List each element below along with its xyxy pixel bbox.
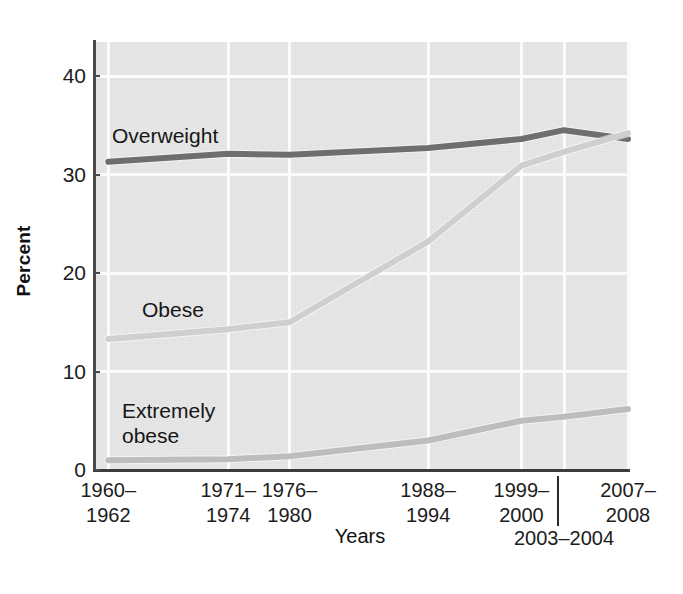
y-axis-tick-mark — [93, 272, 100, 274]
y-axis-tick-mark — [93, 469, 100, 471]
gridline-horizontal — [95, 272, 628, 275]
x-axis-tick-label: 2007–2008 — [568, 478, 683, 528]
x-tick-line-2: 2004 — [570, 527, 615, 549]
x-axis-line — [93, 469, 630, 472]
x-tick-line-1: 1988– — [400, 479, 456, 501]
x-tick-line-1: 1999– — [494, 479, 550, 501]
gridline-vertical — [627, 42, 630, 470]
x-axis-tick-label: 2003–2004 — [504, 526, 624, 551]
x-tick-line-2: 2008 — [568, 503, 683, 528]
y-axis-tick-label: 0 — [46, 459, 86, 480]
series-label: Obese — [142, 297, 204, 322]
gridline-horizontal — [95, 173, 628, 176]
x-axis-separator — [557, 476, 559, 526]
x-axis-title: Years — [300, 525, 420, 548]
x-tick-line-1: 2003– — [514, 527, 570, 549]
gridline-vertical — [107, 42, 110, 470]
y-axis-title: Percent — [13, 201, 35, 321]
y-axis-tick-mark — [93, 371, 100, 373]
gridline-horizontal — [95, 75, 628, 78]
x-tick-line-1: 2007– — [600, 479, 656, 501]
gridline-horizontal — [95, 370, 628, 373]
x-axis-tick-label: 1999–2000 — [461, 478, 581, 528]
x-axis-tick-label: 1976–1980 — [230, 478, 350, 528]
gridline-vertical — [288, 42, 291, 470]
gridline-vertical — [520, 42, 523, 470]
y-axis-tick-label: 10 — [46, 361, 86, 382]
x-tick-line-2: 1962 — [48, 503, 168, 528]
x-axis-tick-label: 1960–1962 — [48, 478, 168, 528]
series-label: Extremely obese — [122, 398, 215, 448]
y-axis-tick-label: 30 — [46, 164, 86, 185]
y-axis-tick-mark — [93, 174, 100, 176]
gridline-vertical — [427, 42, 430, 470]
y-axis-tick-label: 20 — [46, 262, 86, 283]
gridline-vertical — [227, 42, 230, 470]
y-axis-tick-label: 40 — [46, 65, 86, 86]
y-axis-tick-mark — [93, 75, 100, 77]
y-axis-line — [93, 40, 96, 472]
series-label: Overweight — [112, 123, 218, 148]
gridline-vertical — [563, 42, 566, 470]
x-tick-line-2: 2000 — [461, 503, 581, 528]
x-tick-line-1: 1960– — [81, 479, 137, 501]
x-tick-line-1: 1976– — [262, 479, 318, 501]
chart-root: 010203040 Percent OverweightObeseExtreme… — [0, 0, 683, 594]
